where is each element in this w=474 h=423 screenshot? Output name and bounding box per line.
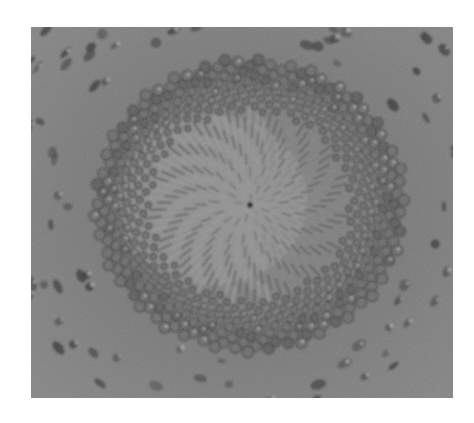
grain-overlay — [31, 27, 453, 398]
image-canvas — [0, 0, 474, 423]
sunflower-spiral-graphic — [31, 27, 453, 398]
sunflower-photo — [31, 27, 453, 398]
